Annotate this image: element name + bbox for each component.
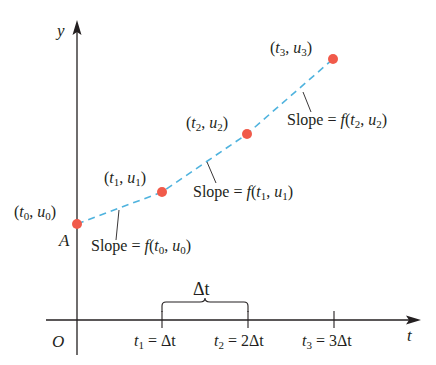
point-2 bbox=[242, 129, 252, 139]
slope-label-2: Slope = f(t2, u2) bbox=[287, 112, 387, 128]
tick-label-t1: t1 = Δt bbox=[134, 333, 176, 349]
t-axis-label: t bbox=[407, 327, 412, 344]
tick-label-t2: t2 = 2Δt bbox=[214, 333, 264, 349]
delta-t-label: Δt bbox=[193, 280, 210, 298]
point-1 bbox=[157, 187, 167, 197]
slope-label-1: Slope = f(t1, u1) bbox=[193, 184, 293, 200]
y-axis-label: y bbox=[57, 22, 65, 39]
point-3-label: (t3, u3) bbox=[270, 40, 312, 56]
point-3 bbox=[328, 54, 338, 64]
tick-label-t3: t3 = 3Δt bbox=[302, 333, 352, 349]
point-0 bbox=[72, 219, 82, 229]
delta-t-brace bbox=[162, 298, 248, 312]
initial-point-label: A bbox=[59, 232, 69, 249]
point-0-label: (t0, u0) bbox=[14, 204, 56, 220]
slope-label-0: Slope = f(t0, u0) bbox=[91, 238, 191, 254]
slope-leader-2 bbox=[303, 92, 311, 112]
point-2-label: (t2, u2) bbox=[186, 115, 228, 131]
origin-label: O bbox=[52, 333, 64, 350]
slope-leader-1 bbox=[207, 162, 216, 183]
slope-leader-0 bbox=[116, 210, 119, 240]
point-1-label: (t1, u1) bbox=[104, 170, 146, 186]
